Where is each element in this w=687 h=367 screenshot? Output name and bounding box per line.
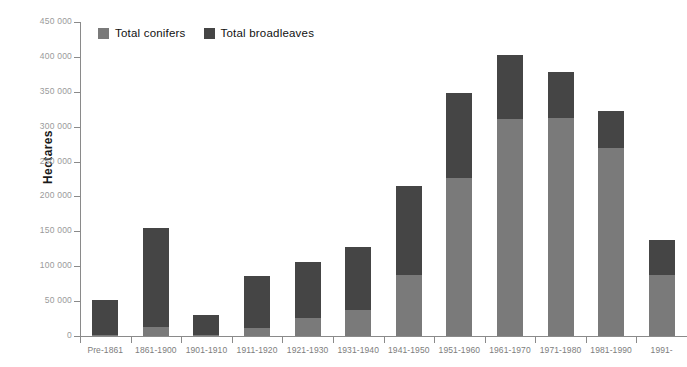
bar-1971-1980[interactable]: [548, 72, 574, 336]
stacked-bar-chart: Hectares 450 000400 000350 000300 000250…: [0, 0, 687, 367]
x-axis-tick: [384, 336, 385, 343]
bar-1941-1950[interactable]: [396, 186, 422, 336]
y-axis-tick: [74, 127, 81, 128]
x-axis-tick: [485, 336, 486, 343]
bar-segment-conifers[interactable]: [295, 318, 321, 336]
bar-1951-1960[interactable]: [446, 93, 472, 336]
x-axis-tick: [636, 336, 637, 343]
y-axis-tick-label: 100 000: [6, 261, 72, 270]
y-axis-tick-label-wrap: 350 000: [0, 87, 72, 96]
y-axis-tick-label-wrap: 250 000: [0, 157, 72, 166]
y-axis-tick-label-wrap: 100 000: [0, 261, 72, 270]
bar-segment-conifers[interactable]: [396, 275, 422, 336]
bar-segment-conifers[interactable]: [497, 119, 523, 336]
x-axis-tick-label: 1921-1930: [282, 345, 333, 355]
y-axis-tick-label: 450 000: [6, 17, 72, 26]
bar-segment-broadleaves[interactable]: [497, 55, 523, 119]
y-axis-tick-label-wrap: 0: [0, 331, 72, 340]
bar-segment-broadleaves[interactable]: [92, 300, 118, 336]
y-axis-tick-label: 50 000: [6, 296, 72, 305]
y-axis-tick-label: 200 000: [6, 191, 72, 200]
bar-1901-1910[interactable]: [193, 315, 219, 336]
bar-segment-conifers[interactable]: [143, 327, 169, 336]
x-axis-tick: [535, 336, 536, 343]
x-axis-tick: [333, 336, 334, 343]
y-axis-tick: [74, 301, 81, 302]
y-axis-tick: [74, 57, 81, 58]
y-axis-tick: [74, 266, 81, 267]
x-axis-tick-label: 1951-1960: [434, 345, 485, 355]
bar-segment-conifers[interactable]: [92, 335, 118, 336]
y-axis-tick-label-wrap: 150 000: [0, 226, 72, 235]
bar-segment-conifers[interactable]: [598, 148, 624, 336]
legend-item-conifers[interactable]: Total conifers: [98, 27, 186, 39]
legend-label-conifers: Total conifers: [115, 27, 186, 39]
bar-segment-broadleaves[interactable]: [193, 315, 219, 335]
bar-1911-1920[interactable]: [244, 276, 270, 336]
x-axis-tick-label: 1991-: [636, 345, 687, 355]
bar-1861-1900[interactable]: [143, 228, 169, 336]
y-axis-tick: [74, 92, 81, 93]
y-axis-tick: [74, 231, 81, 232]
x-axis-tick-label: 1901-1910: [181, 345, 232, 355]
x-axis-tick: [586, 336, 587, 343]
y-axis-tick-label: 250 000: [6, 157, 72, 166]
bar-segment-broadleaves[interactable]: [295, 262, 321, 318]
x-axis-tick: [282, 336, 283, 343]
y-axis-tick-label-wrap: 300 000: [0, 122, 72, 131]
bar-1961-1970[interactable]: [497, 55, 523, 336]
x-axis-tick: [131, 336, 132, 343]
x-axis-tick: [181, 336, 182, 343]
y-axis-tick: [74, 22, 81, 23]
y-axis-tick-label-wrap: 400 000: [0, 52, 72, 61]
y-axis-tick-label: 400 000: [6, 52, 72, 61]
x-axis-tick-label: Pre-1861: [80, 345, 131, 355]
square-swatch-icon: [204, 28, 215, 39]
bar-segment-broadleaves[interactable]: [396, 186, 422, 275]
y-axis-tick-label: 0: [6, 331, 72, 340]
bar-pre-1861[interactable]: [92, 300, 118, 336]
bar-segment-conifers[interactable]: [244, 328, 270, 336]
y-axis-tick: [74, 196, 81, 197]
x-axis-tick-label: 1981-1990: [586, 345, 637, 355]
x-axis-tick: [232, 336, 233, 343]
y-axis-tick-label-wrap: 450 000: [0, 17, 72, 26]
x-axis-tick-label: 1941-1950: [384, 345, 435, 355]
x-axis-tick-label: 1861-1900: [131, 345, 182, 355]
bar-1981-1990[interactable]: [598, 111, 624, 336]
bar-1991[interactable]: [649, 240, 675, 336]
bar-1931-1940[interactable]: [345, 247, 371, 336]
y-axis-tick-label: 150 000: [6, 226, 72, 235]
bar-segment-broadleaves[interactable]: [446, 93, 472, 177]
y-axis-line: [80, 22, 81, 336]
x-axis-tick-label: 1931-1940: [333, 345, 384, 355]
bar-segment-conifers[interactable]: [345, 310, 371, 337]
legend-item-broadleaves[interactable]: Total broadleaves: [204, 27, 315, 39]
x-axis-tick: [434, 336, 435, 343]
bar-segment-conifers[interactable]: [649, 275, 675, 336]
x-axis-tick-label: 1961-1970: [485, 345, 536, 355]
bar-segment-broadleaves[interactable]: [345, 247, 371, 309]
y-axis-tick-label-wrap: 50 000: [0, 296, 72, 305]
bar-segment-broadleaves[interactable]: [244, 276, 270, 328]
legend: Total conifers Total broadleaves: [98, 27, 314, 39]
y-axis-tick-label: 300 000: [6, 122, 72, 131]
bar-segment-conifers[interactable]: [193, 335, 219, 336]
x-axis-tick-label: 1971-1980: [535, 345, 586, 355]
bar-segment-broadleaves[interactable]: [548, 72, 574, 118]
y-axis-tick-label: 350 000: [6, 87, 72, 96]
square-swatch-icon: [98, 28, 109, 39]
legend-label-broadleaves: Total broadleaves: [221, 27, 315, 39]
bar-segment-conifers[interactable]: [548, 118, 574, 336]
bar-segment-broadleaves[interactable]: [649, 240, 675, 276]
x-axis-tick: [80, 336, 81, 343]
bar-1921-1930[interactable]: [295, 262, 321, 336]
bar-segment-broadleaves[interactable]: [143, 228, 169, 327]
bar-segment-broadleaves[interactable]: [598, 111, 624, 148]
y-axis-tick: [74, 162, 81, 163]
y-axis-tick-label-wrap: 200 000: [0, 191, 72, 200]
bar-segment-conifers[interactable]: [446, 178, 472, 336]
x-axis-tick-label: 1911-1920: [232, 345, 283, 355]
